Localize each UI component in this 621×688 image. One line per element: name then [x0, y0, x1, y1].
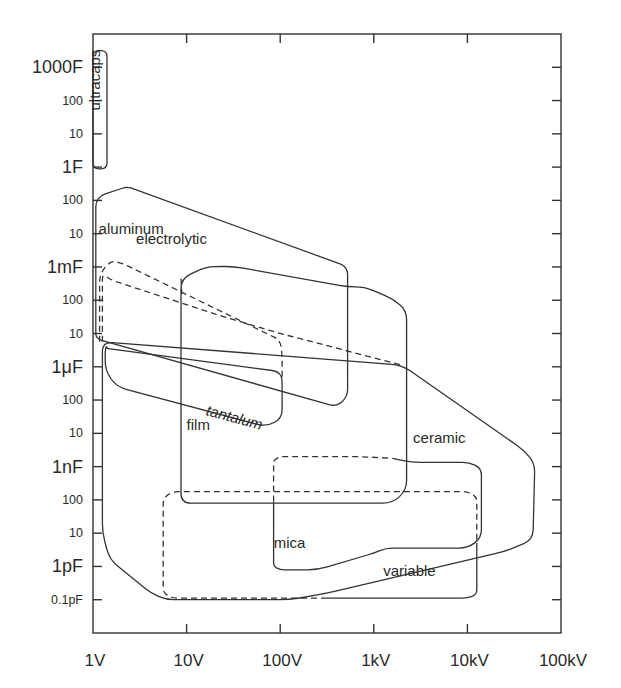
region-variable-dashed — [163, 492, 477, 598]
region-tantalum-dashed-extension — [100, 262, 283, 379]
x-axis: 1V10V100V1kV10kV100kV — [85, 34, 588, 670]
label-mica: mica — [274, 534, 306, 551]
y-tick-label: 1mF — [47, 257, 83, 277]
x-tick-label: 10kV — [450, 651, 489, 670]
y-tick-label: 1000F — [32, 57, 83, 77]
label-film: film — [187, 416, 210, 433]
capacitor-range-chart: 1000F100101F100101mF100101μF100101nF1001… — [0, 0, 621, 688]
y-tick-label: 10 — [69, 526, 83, 540]
label-ceramic: ceramic — [413, 429, 466, 446]
y-tick-label: 100 — [62, 393, 83, 407]
x-tick-label: 100kV — [539, 651, 588, 670]
capacitor-regions — [93, 51, 535, 600]
y-tick-label: 0.1pF — [51, 593, 83, 607]
label-tantalum: tantalum — [205, 402, 265, 433]
region-mica — [274, 458, 482, 570]
x-tick-label: 1kV — [361, 651, 391, 670]
y-tick-label: 10 — [69, 227, 83, 241]
y-tick-label: 100 — [62, 94, 83, 108]
label-ultracaps: ultracaps — [86, 50, 103, 111]
y-tick-label: 1pF — [52, 556, 83, 576]
region-film — [181, 266, 407, 503]
label-aluminum-electrolytic-line2: electrolytic — [136, 230, 207, 247]
region-ceramic — [102, 343, 534, 600]
region-mica-dashed — [274, 457, 393, 502]
y-tick-label: 100 — [62, 193, 83, 207]
y-tick-label: 10 — [69, 327, 83, 341]
x-tick-label: 1V — [85, 651, 106, 670]
region-ceramic-dashed — [102, 276, 402, 365]
y-tick-label: 100 — [62, 293, 83, 307]
y-tick-label: 1nF — [52, 457, 83, 477]
y-tick-label: 10 — [69, 127, 83, 141]
label-variable: variable — [383, 562, 436, 579]
region-labels: ultracapsaluminumelectrolytictantalumfil… — [86, 50, 467, 580]
x-tick-label: 100V — [262, 651, 302, 670]
x-tick-label: 10V — [173, 651, 204, 670]
y-tick-label: 1F — [62, 157, 83, 177]
y-tick-label: 1μF — [52, 357, 83, 377]
y-tick-label: 10 — [69, 426, 83, 440]
y-tick-label: 100 — [62, 493, 83, 507]
